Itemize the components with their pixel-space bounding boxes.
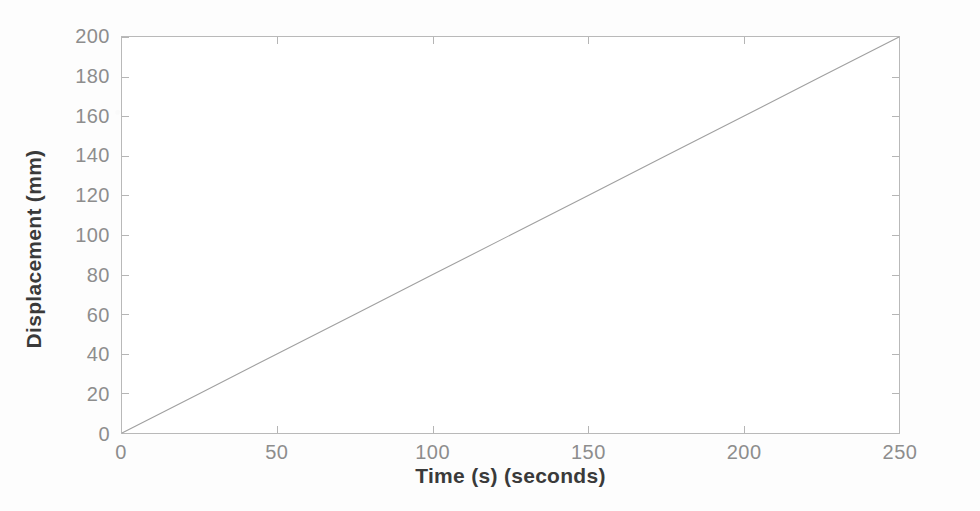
y-tick-label: 40 [87,343,110,366]
series-displacement-line [122,37,899,433]
x-tick-label: 200 [727,441,762,464]
y-tick-label: 20 [87,383,110,406]
x-axis-title: Time (s) (seconds) [121,464,900,488]
x-tick-label: 50 [265,441,288,464]
y-tick-label: 100 [75,224,110,247]
chart-figure: 200 180 160 140 120 100 80 60 40 20 0 [0,0,980,511]
y-tick-label: 60 [87,303,110,326]
y-tick-label: 0 [98,423,110,446]
y-tick-label: 200 [75,25,110,48]
plot-area [121,36,900,434]
data-line-chart [122,37,899,433]
y-axis-tick-label-group: 200 180 160 140 120 100 80 60 40 20 0 [0,36,110,434]
x-tick-label: 250 [883,441,918,464]
y-axis-title: Displacement (mm) [22,149,46,349]
x-tick-label: 0 [115,441,127,464]
y-tick-label: 180 [75,64,110,87]
x-tick-label: 100 [415,441,450,464]
x-tick-label: 150 [571,441,606,464]
y-tick-label: 80 [87,263,110,286]
y-tick-label: 120 [75,184,110,207]
y-tick-label: 140 [75,144,110,167]
y-tick-label: 160 [75,104,110,127]
